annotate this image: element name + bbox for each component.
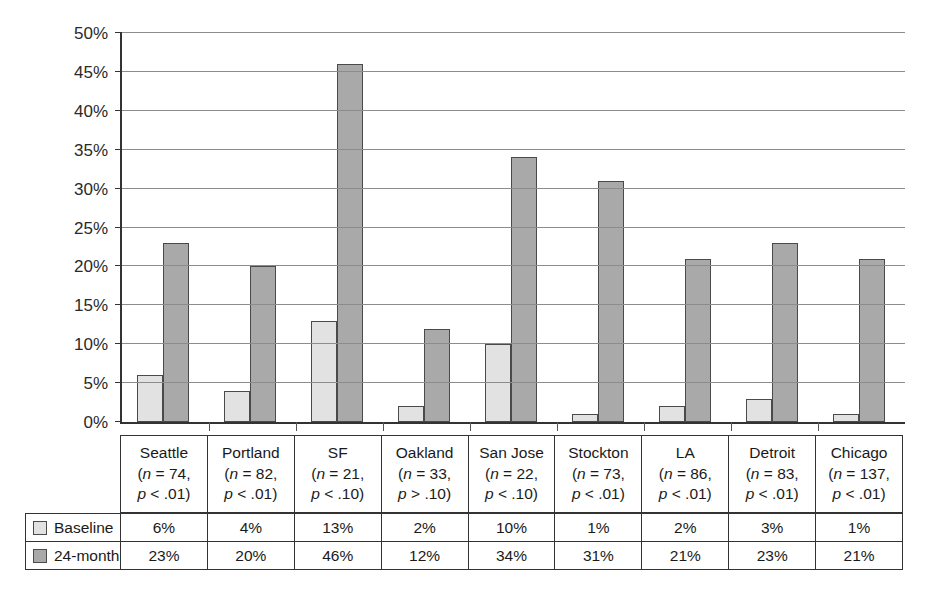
category-cell-la: LA(n = 86,p < .01) — [641, 436, 728, 512]
x-tickmark — [644, 422, 645, 431]
y-tickmark — [115, 227, 122, 228]
legend-item-baseline: Baseline — [26, 514, 121, 541]
x-tickmark — [470, 422, 471, 431]
y-tick-label: 0% — [83, 414, 108, 431]
y-tick-label: 10% — [74, 336, 108, 353]
table-cell-value: 34% — [469, 542, 556, 569]
category-sample-size: (n = 21, — [311, 464, 364, 485]
gridline — [122, 304, 905, 305]
bar-group — [731, 33, 818, 422]
category-p-value: p < .10) — [311, 484, 364, 505]
y-tick-label: 25% — [74, 219, 108, 236]
table-cell-value: 4% — [208, 514, 295, 541]
category-name: Detroit — [749, 443, 795, 464]
table-cell-value: 1% — [555, 514, 642, 541]
bar-group — [557, 33, 644, 422]
y-tick-label: 50% — [74, 25, 108, 42]
category-p-value: p < .01) — [224, 484, 277, 505]
category-cell-chicago: Chicago(n = 137,p < .01) — [815, 436, 902, 512]
bar-group — [470, 33, 557, 422]
y-tick-label: 35% — [74, 141, 108, 158]
y-tick-label: 5% — [83, 375, 108, 392]
y-tickmark — [115, 304, 122, 305]
category-sample-size: (n = 74, — [137, 464, 190, 485]
plot-area — [120, 33, 905, 424]
legend-label-24month: 24-month — [54, 547, 119, 565]
x-tickmark — [818, 422, 819, 431]
y-tick-label: 15% — [74, 297, 108, 314]
bar-groups — [122, 33, 905, 422]
gridline — [122, 188, 905, 189]
category-name: Portland — [222, 443, 280, 464]
bar-baseline — [224, 391, 250, 422]
bar-baseline — [833, 414, 859, 422]
table-cell-value: 23% — [729, 542, 816, 569]
category-cell-sf: SF(n = 21,p < .10) — [294, 436, 381, 512]
table-row-baseline: Baseline 6%4%13%2%10%1%2%3%1% — [26, 514, 902, 542]
category-sample-size: (n = 73, — [572, 464, 625, 485]
table-cell-value: 2% — [642, 514, 729, 541]
category-p-value: p < .01) — [137, 484, 190, 505]
bar-group — [296, 33, 383, 422]
category-p-value: p > .10) — [398, 484, 451, 505]
plot-region: 0%5%10%15%20%25%30%35%40%45%50% — [25, 20, 903, 435]
category-p-value: p < .10) — [485, 484, 538, 505]
y-tick-label: 30% — [74, 180, 108, 197]
category-sample-size: (n = 137, — [828, 464, 890, 485]
category-cell-detroit: Detroit(n = 83,p < .01) — [728, 436, 815, 512]
category-name: Seattle — [140, 443, 188, 464]
table-cell-value: 46% — [295, 542, 382, 569]
y-tickmark — [115, 421, 122, 422]
y-tick-label: 40% — [74, 102, 108, 119]
category-sample-size: (n = 82, — [224, 464, 277, 485]
y-tickmark — [115, 343, 122, 344]
y-tickmark — [115, 32, 122, 33]
y-tick-label: 20% — [74, 258, 108, 275]
category-cell-san-jose: San Jose(n = 22,p < .10) — [468, 436, 555, 512]
bar-24month — [337, 64, 363, 422]
bar-baseline — [659, 406, 685, 422]
gridline — [122, 382, 905, 383]
x-tickmark — [296, 422, 297, 431]
gridline — [122, 227, 905, 228]
category-sample-size: (n = 83, — [746, 464, 799, 485]
bar-baseline — [398, 406, 424, 422]
legend-label-baseline: Baseline — [54, 519, 113, 537]
bar-24month — [163, 243, 189, 422]
category-sample-size: (n = 22, — [485, 464, 538, 485]
gridline — [122, 265, 905, 266]
bar-24month — [772, 243, 798, 422]
table-cell-value: 13% — [295, 514, 382, 541]
category-name: Chicago — [831, 443, 888, 464]
category-name: Oakland — [396, 443, 454, 464]
bar-24month — [250, 266, 276, 422]
gridline — [122, 149, 905, 150]
legend-item-24month: 24-month — [26, 542, 121, 569]
bar-chart-figure: 0%5%10%15%20%25%30%35%40%45%50% Seattle(… — [0, 0, 927, 595]
bar-group — [644, 33, 731, 422]
bar-group — [383, 33, 470, 422]
table-cell-value: 21% — [816, 542, 902, 569]
y-tickmark — [115, 188, 122, 189]
category-name: San Jose — [479, 443, 544, 464]
y-axis: 0%5%10%15%20%25%30%35%40%45%50% — [25, 20, 114, 435]
category-name: Stockton — [568, 443, 628, 464]
category-cell-portland: Portland(n = 82,p < .01) — [207, 436, 294, 512]
x-tickmark — [557, 422, 558, 431]
data-table: Baseline 6%4%13%2%10%1%2%3%1% 24-month 2… — [25, 513, 903, 570]
y-tickmark — [115, 71, 122, 72]
category-p-value: p < .01) — [833, 484, 886, 505]
table-cell-value: 20% — [208, 542, 295, 569]
bar-baseline — [572, 414, 598, 422]
category-cell-seattle: Seattle(n = 74,p < .01) — [120, 436, 207, 512]
legend-swatch-24month-icon — [33, 549, 47, 563]
category-p-value: p < .01) — [746, 484, 799, 505]
gridline — [122, 343, 905, 344]
category-p-value: p < .01) — [659, 484, 712, 505]
bar-baseline — [311, 321, 337, 422]
y-tick-label: 45% — [74, 63, 108, 80]
legend-swatch-baseline-icon — [33, 521, 47, 535]
category-name: LA — [676, 443, 695, 464]
table-cell-value: 3% — [729, 514, 816, 541]
category-cell-stockton: Stockton(n = 73,p < .01) — [554, 436, 641, 512]
